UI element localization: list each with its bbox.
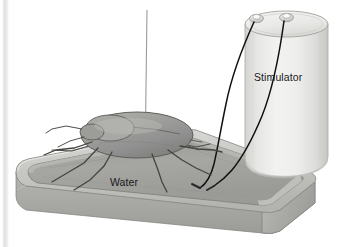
illustration-canvas [0,0,338,247]
left-edge-strip [3,0,9,247]
water-label: Water [110,176,138,188]
stimulator-terminal-left[interactable] [250,14,264,22]
stimulator-terminal-right[interactable] [280,13,294,21]
figure-root: Stimulator Water [0,0,338,247]
stimulator-body [245,24,328,177]
stimulator-device [245,11,328,178]
antenna-left [46,126,82,133]
electrode-pin [146,10,148,126]
cockroach-body-highlight [94,118,162,134]
cockroach-antennae [46,126,84,147]
stimulator-label: Stimulator [254,71,302,83]
